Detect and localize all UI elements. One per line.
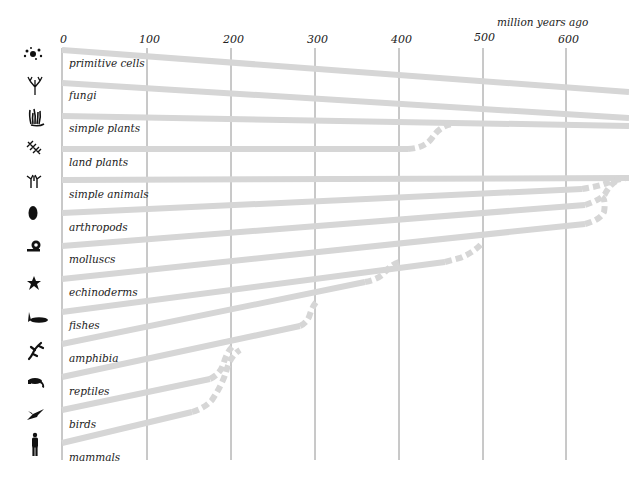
label-arthropods: arthropods (69, 221, 128, 233)
axis-unit-label: million years ago (497, 16, 588, 28)
tick-500: 500 (474, 31, 495, 44)
label-primitive-cells: primitive cells (69, 57, 145, 69)
evolution-timeline-diagram: million years ago 0 100 200 300 400 500 … (0, 0, 629, 483)
label-simple-animals: simple animals (69, 188, 149, 200)
bird-icon (27, 409, 44, 420)
branch-simple-animals (62, 178, 629, 180)
label-molluscs: molluscs (69, 253, 116, 265)
lizard-icon (28, 378, 44, 388)
label-simple-plants: simple plants (69, 122, 141, 134)
snail-icon (27, 241, 41, 252)
tick-600: 600 (558, 33, 579, 46)
label-fungi: fungi (68, 89, 97, 101)
label-birds: birds (69, 418, 97, 430)
trilobite-icon (29, 206, 38, 220)
fungi-icon (28, 77, 42, 95)
tick-0: 0 (60, 33, 67, 46)
branch-echinoderms (62, 224, 585, 279)
fern-icon (27, 141, 41, 154)
starfish-icon (27, 276, 41, 290)
fish-icon (28, 312, 48, 323)
tick-400: 400 (390, 33, 412, 46)
seaweed-icon (30, 109, 44, 126)
group-icons (24, 47, 48, 456)
sponge-icon (27, 175, 41, 188)
cells-icon (24, 47, 42, 60)
tick-200: 200 (222, 33, 244, 46)
tick-300: 300 (307, 33, 328, 46)
tick-100: 100 (139, 33, 160, 46)
label-amphibia: amphibia (69, 352, 118, 364)
label-echinoderms: echinoderms (69, 286, 138, 298)
human-icon (32, 433, 38, 456)
branch-birds-link (210, 347, 232, 379)
branch-land-plants-link (408, 124, 452, 149)
label-reptiles: reptiles (69, 385, 110, 397)
label-fishes: fishes (68, 319, 100, 331)
label-land-plants: land plants (69, 156, 129, 168)
label-mammals: mammals (69, 451, 121, 463)
branch-fishes-link (445, 242, 483, 262)
axis-ticks: 0 100 200 300 400 500 600 (60, 31, 579, 46)
salamander-icon (29, 343, 43, 359)
